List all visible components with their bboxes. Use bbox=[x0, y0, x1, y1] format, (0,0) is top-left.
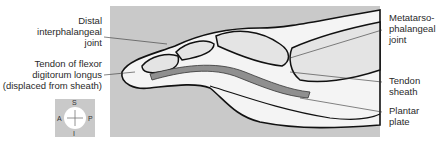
compass-posterior: P bbox=[88, 115, 93, 122]
label-line: (displaced from sheath) bbox=[0, 80, 102, 91]
label-line: Tendon of flexor bbox=[0, 58, 102, 69]
leader-line-distal-ip bbox=[104, 37, 167, 44]
label-line: interphalangeal bbox=[10, 26, 102, 37]
label-line: joint bbox=[10, 37, 102, 48]
label-line: phalangeal bbox=[389, 23, 436, 34]
label-tendon-sheath: Tendon sheath bbox=[389, 75, 420, 97]
compass-anterior: A bbox=[57, 115, 62, 122]
label-line: Tendon bbox=[389, 75, 420, 86]
label-plantar-plate: Plantar plate bbox=[389, 105, 419, 127]
label-line: Plantar bbox=[389, 105, 419, 116]
label-line: sheath bbox=[389, 86, 420, 97]
compass-superior: S bbox=[72, 99, 77, 106]
label-metatarsophalangeal-joint: Metatarso- phalangeal joint bbox=[389, 12, 436, 45]
label-tendon-flexor-digitorum-longus: Tendon of flexor digitorum longus (displ… bbox=[0, 58, 102, 91]
label-line: plate bbox=[389, 116, 419, 127]
label-line: digitorum longus bbox=[0, 69, 102, 80]
label-line: Distal bbox=[10, 15, 102, 26]
compass-inferior: I bbox=[73, 130, 75, 137]
label-line: Metatarso- bbox=[389, 12, 436, 23]
label-distal-interphalangeal-joint: Distal interphalangeal joint bbox=[10, 15, 102, 48]
orientation-compass: S I A P bbox=[55, 99, 95, 137]
label-line: joint bbox=[389, 34, 436, 45]
